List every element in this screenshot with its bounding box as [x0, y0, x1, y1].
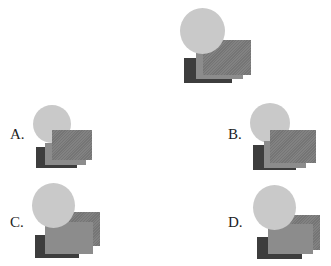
- circle-shape: [253, 185, 296, 230]
- puzzle-figure: A. B. C. D.: [0, 0, 331, 266]
- option-d-label: D.: [228, 215, 243, 230]
- option-b-label: B.: [228, 127, 242, 142]
- option-a-label: A.: [10, 127, 25, 142]
- textured-rectangle: [52, 130, 92, 160]
- textured-rectangle: [270, 130, 316, 163]
- option-c-label: C.: [10, 215, 24, 230]
- circle-shape: [180, 8, 225, 54]
- circle-shape: [32, 183, 75, 228]
